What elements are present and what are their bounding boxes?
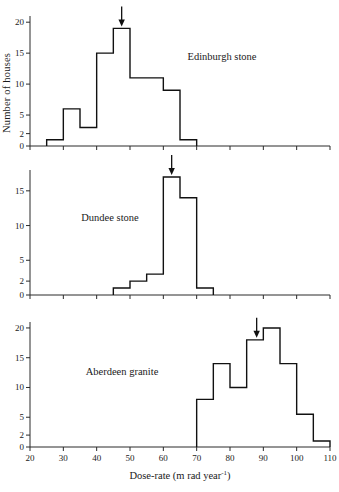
histogram-outline — [47, 28, 197, 146]
y-axis-title-text: Number of houses — [1, 53, 12, 133]
x-tick-label: 100 — [290, 453, 304, 463]
x-tick-label: 70 — [192, 453, 202, 463]
y-tick-label: 2 — [20, 276, 25, 286]
y-tick-label: 15 — [15, 48, 25, 58]
histogram-outline — [113, 177, 213, 295]
x-axis-labels: 2030405060708090100110 — [26, 453, 338, 463]
y-tick-label: 10 — [15, 382, 25, 392]
panel-title-1: Edinburgh stone — [188, 51, 257, 62]
mean-arrow — [118, 6, 124, 26]
y-axis-title: Number of houses — [0, 18, 14, 168]
x-tick-label: 60 — [159, 453, 169, 463]
y-tick-label: 0 — [20, 290, 25, 300]
y-tick-label: 2 — [20, 430, 25, 440]
mean-arrow — [253, 318, 259, 338]
arrow-head — [253, 331, 259, 338]
panel-title-2: Dundee stone — [81, 212, 139, 223]
x-tick-label: 90 — [259, 453, 269, 463]
y-tick-label: 5 — [20, 412, 25, 422]
panel-1: 025101520Edinburgh stone — [15, 6, 330, 151]
x-tick-label: 40 — [92, 453, 102, 463]
y-tick-label: 15 — [15, 186, 25, 196]
histogram-outline — [197, 328, 330, 447]
panel-3: 025101520Aberdeen granite — [15, 318, 330, 452]
y-tick-label: 10 — [15, 221, 25, 231]
mean-arrow — [168, 155, 174, 175]
y-tick-label: 2 — [20, 129, 25, 139]
y-tick-label: 20 — [15, 323, 25, 333]
x-axis-title: Dose-rate (m rad year-1) — [129, 469, 231, 482]
x-tick-label: 50 — [126, 453, 136, 463]
y-tick-label: 0 — [20, 442, 25, 452]
y-tick-label: 0 — [20, 141, 25, 151]
panel-title-3: Aberdeen granite — [86, 366, 159, 377]
x-tick-label: 30 — [59, 453, 69, 463]
plot-canvas: 025101520Edinburgh stone0251015Dundee st… — [0, 0, 339, 492]
y-tick-label: 15 — [15, 353, 25, 363]
arrow-head — [168, 168, 174, 175]
y-tick-label: 5 — [20, 110, 25, 120]
x-axis-title-text: Dose-rate (m rad year-1) — [129, 469, 231, 482]
histogram-figure: Number of houses 025101520Edinburgh ston… — [0, 0, 339, 492]
x-tick-label: 20 — [26, 453, 36, 463]
x-tick-label: 80 — [226, 453, 236, 463]
panel-2: 0251015Dundee stone — [15, 155, 330, 300]
y-tick-label: 5 — [20, 255, 25, 265]
y-tick-label: 10 — [15, 79, 25, 89]
arrow-head — [118, 19, 124, 26]
y-tick-label: 20 — [15, 17, 25, 27]
x-tick-label: 110 — [323, 453, 337, 463]
